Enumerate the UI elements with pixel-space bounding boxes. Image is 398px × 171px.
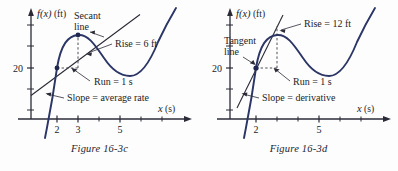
tangent-line-label-line2: line <box>224 46 240 57</box>
secant-line-label-line1: Secant <box>74 10 101 21</box>
run-label: Run = 1 s <box>293 76 332 87</box>
y-tick-label-20: 20 <box>212 63 222 74</box>
y-axis-label: f(x) (ft) <box>37 8 66 20</box>
y-axis-arrowhead <box>227 8 233 16</box>
figure-caption-16-3c: Figure 16-3c <box>0 143 199 154</box>
slope-label: Slope = average rate <box>67 92 150 103</box>
point-marker-start <box>55 66 60 71</box>
slope-leader-arrowhead <box>242 93 248 97</box>
x-tick-label-5: 5 <box>317 124 322 135</box>
x-axis-label: x (s) <box>356 103 374 115</box>
run-label: Run = 1 s <box>94 76 133 87</box>
x-axis-label: x (s) <box>157 103 175 115</box>
x-tick-label-2: 2 <box>254 124 259 135</box>
point-marker-tangency <box>253 65 258 70</box>
rise-leader-line <box>281 24 301 30</box>
x-tick-label-2: 2 <box>55 124 60 135</box>
figure-panel-tangent: f(x) (ft) x (s) 20 2 5 Tangent line Rise… <box>199 0 398 171</box>
x-axis-arrowhead <box>383 116 391 122</box>
rise-label: Rise = 6 ft <box>115 38 157 49</box>
figure-pair-page: f(x) (ft) x (s) 20 2 3 5 Secant line <box>0 0 398 171</box>
x-axis-arrowhead <box>184 116 192 122</box>
rise-label: Rise = 12 ft <box>304 18 351 29</box>
slope-leader-arrowhead <box>46 93 52 97</box>
y-axis-label: f(x) (ft) <box>236 8 265 20</box>
tangent-line-label-line1: Tangent <box>224 35 256 46</box>
y-axis-arrowhead <box>28 8 34 16</box>
secant-line-label-line2: line <box>74 21 90 32</box>
figure-panel-secant: f(x) (ft) x (s) 20 2 3 5 Secant line <box>0 0 199 171</box>
x-tick-label-5: 5 <box>118 124 123 135</box>
slope-label: Slope = derivative <box>262 92 336 103</box>
y-tick-label-20: 20 <box>13 63 23 74</box>
figure-16-3c-graph: f(x) (ft) x (s) 20 2 3 5 Secant line <box>0 0 199 144</box>
point-marker-end <box>76 33 81 38</box>
tangent-leader-arrowhead <box>250 60 256 65</box>
figure-16-3d-graph: f(x) (ft) x (s) 20 2 5 Tangent line Rise… <box>199 0 398 144</box>
x-tick-label-3: 3 <box>76 124 81 135</box>
figure-caption-16-3d: Figure 16-3d <box>199 143 398 154</box>
